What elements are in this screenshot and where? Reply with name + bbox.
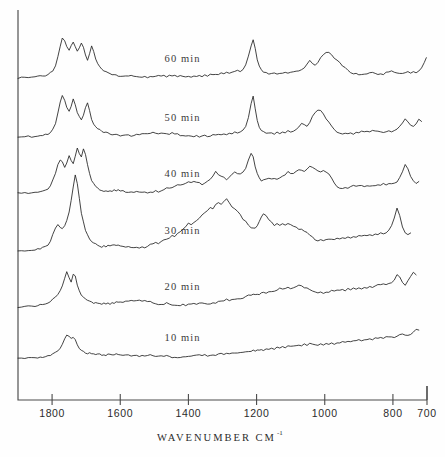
trace-label: 20 min	[165, 281, 201, 292]
spectrum-trace	[18, 38, 426, 78]
trace-labels: 60 min50 min40 min30 min20 min10 min	[165, 53, 201, 343]
x-axis-title-text: WAVENUMBER CM	[157, 432, 276, 443]
plot-frame	[18, 10, 427, 400]
spectrum-trace	[18, 329, 419, 358]
spectrum-trace	[18, 272, 416, 308]
axis-tick-labels: 18001600140012001000800700	[39, 407, 436, 419]
x-axis-title: WAVENUMBER CM -1	[157, 429, 283, 443]
trace-label: 40 min	[165, 168, 201, 179]
spectra-traces	[18, 38, 426, 358]
axis-tick-label: 800	[383, 407, 402, 419]
axis-tick-label: 700	[417, 407, 436, 419]
axis-tick-label: 1800	[39, 407, 65, 419]
axis-tick-label: 1200	[244, 407, 270, 419]
axis-tick-label: 1600	[107, 407, 133, 419]
trace-label: 30 min	[165, 225, 201, 236]
ftir-spectra-figure: 18001600140012001000800700 60 min50 min4…	[0, 0, 445, 457]
axis-ticks	[52, 386, 427, 405]
spectra-plot: 18001600140012001000800700 60 min50 min4…	[0, 0, 445, 457]
axis-tick-label: 1400	[176, 407, 202, 419]
x-axis-title-superscript: -1	[277, 429, 283, 437]
spectrum-trace	[18, 95, 422, 137]
trace-label: 50 min	[165, 112, 201, 123]
axis-tick-label: 1000	[312, 407, 338, 419]
trace-label: 60 min	[165, 53, 201, 64]
trace-label: 10 min	[165, 332, 201, 343]
